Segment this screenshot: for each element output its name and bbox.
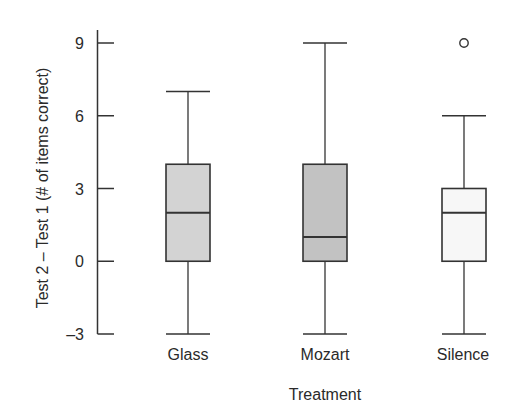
box-plot: –30369 Test 2 – Test 1 (# of items corre… [0,0,527,406]
y-axis-title: Test 2 – Test 1 (# of items correct) [34,68,51,309]
outlier-point [460,39,468,47]
y-axis: –30369 Test 2 – Test 1 (# of items corre… [34,30,114,343]
box-glass [166,92,210,335]
y-tick-label: 9 [75,35,84,52]
y-tick-label: 6 [75,108,84,125]
y-tick-label: 0 [75,253,84,270]
y-tick-label: –3 [66,326,84,343]
box-silence [442,39,486,334]
x-axis: Glass Mozart Silence Treatment [168,346,490,403]
box-mozart [303,43,347,334]
category-label-silence: Silence [437,346,490,363]
iqr-box [442,189,486,262]
y-ticks: –30369 [66,35,114,343]
category-label-mozart: Mozart [301,346,350,363]
boxes [166,39,486,334]
category-label-glass: Glass [168,346,209,363]
y-tick-label: 3 [75,181,84,198]
x-axis-title: Treatment [289,386,362,403]
iqr-box [303,164,347,261]
